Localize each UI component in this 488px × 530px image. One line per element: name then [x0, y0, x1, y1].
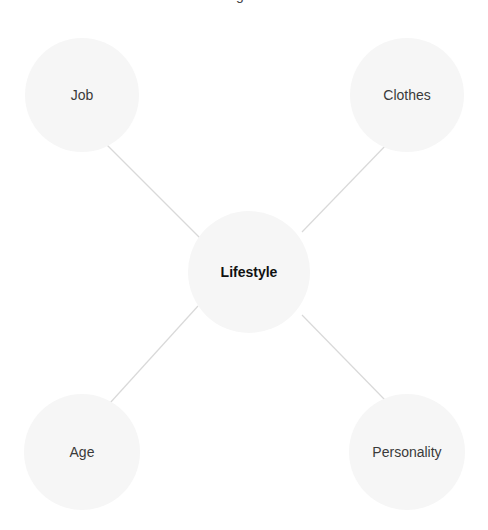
node-job[interactable]: Job [25, 38, 139, 152]
mind-map-diagram: g Job Clothes Lifestyle Age Personality [0, 0, 488, 530]
edge-clothes-lifestyle [302, 143, 388, 232]
node-age-label: Age [70, 444, 95, 460]
node-age[interactable]: Age [24, 394, 140, 510]
edge-age-lifestyle [110, 306, 198, 403]
node-lifestyle-label: Lifestyle [221, 264, 278, 280]
node-clothes[interactable]: Clothes [350, 38, 464, 152]
node-personality-label: Personality [372, 444, 441, 460]
node-lifestyle-center[interactable]: Lifestyle [188, 211, 310, 333]
node-personality[interactable]: Personality [349, 394, 465, 510]
node-job-label: Job [71, 87, 94, 103]
edge-job-lifestyle [107, 145, 201, 239]
node-clothes-label: Clothes [383, 87, 430, 103]
edge-personality-lifestyle [302, 315, 385, 400]
